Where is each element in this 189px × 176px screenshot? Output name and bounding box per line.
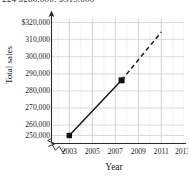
- chart-figure: 224 $280,000; $315,000: [0, 0, 188, 176]
- x-tick-label: 2013: [170, 148, 189, 156]
- x-tick-labels: 2003 2005 2007 2009 2011 2013: [0, 0, 188, 176]
- x-axis-title: Year: [54, 162, 174, 172]
- y-axis-title: Total sales: [4, 30, 14, 100]
